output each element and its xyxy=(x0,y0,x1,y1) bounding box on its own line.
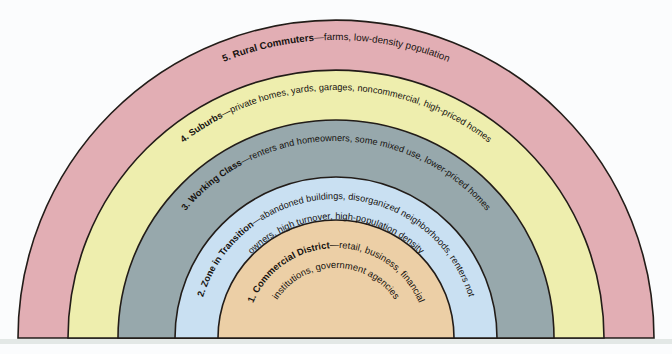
baseline-shadow xyxy=(0,339,672,344)
zone-bands xyxy=(18,20,654,338)
concentric-zone-figure: 1. Commercial District—retail, business,… xyxy=(0,0,672,354)
concentric-zone-diagram: 1. Commercial District—retail, business,… xyxy=(0,0,672,354)
